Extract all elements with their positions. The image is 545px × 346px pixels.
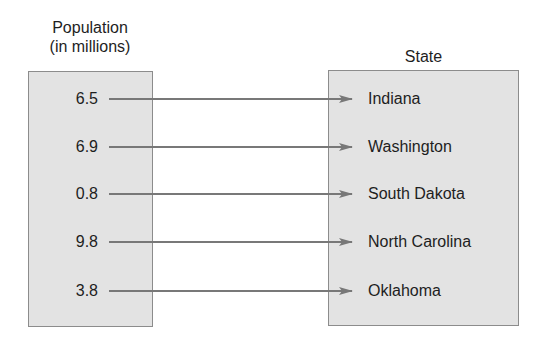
state-name: Oklahoma [368, 282, 441, 300]
state-name: Washington [368, 138, 452, 156]
state-name: South Dakota [368, 185, 465, 203]
population-value: 0.8 [38, 185, 98, 203]
population-value: 3.8 [38, 282, 98, 300]
population-value: 6.5 [38, 90, 98, 108]
state-name: North Carolina [368, 233, 471, 251]
population-value: 6.9 [38, 138, 98, 156]
population-value: 9.8 [38, 233, 98, 251]
state-name: Indiana [368, 90, 421, 108]
